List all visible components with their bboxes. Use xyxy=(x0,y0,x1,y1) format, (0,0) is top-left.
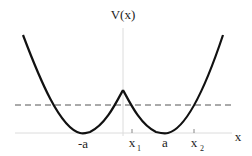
potential-curve-right-well xyxy=(123,35,223,133)
tick-label-a: a xyxy=(162,135,168,150)
y-axis-label: V(x) xyxy=(111,7,136,22)
potential-curve-left-well xyxy=(23,35,123,133)
tick-label-neg-a: -a xyxy=(78,136,88,151)
tick-label-x1-subscript: 1 xyxy=(137,144,141,153)
double-well-diagram: V(x) x -a x 1 a x 2 xyxy=(0,0,252,156)
x-axis-label: x xyxy=(235,129,242,144)
tick-label-x1: x xyxy=(129,135,136,150)
tick-label-x2: x xyxy=(191,135,198,150)
tick-label-x2-subscript: 2 xyxy=(200,144,204,153)
